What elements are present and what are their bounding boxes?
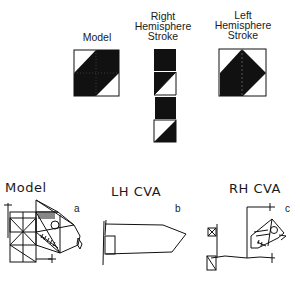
model-handwritten-label: Model <box>5 180 47 195</box>
lh-cva-drawing <box>103 220 186 265</box>
figure-drawings <box>0 0 300 281</box>
rh-cva-drawing <box>207 203 286 270</box>
rh-stroke-column <box>154 49 176 142</box>
panel-letter-b: b <box>175 203 181 214</box>
model-square <box>74 50 119 96</box>
panel-letter-c: c <box>285 203 290 214</box>
rh-cva-label: RH CVA <box>229 181 281 196</box>
lh-cva-label: LH CVA <box>111 184 161 199</box>
model-drawing <box>4 200 82 263</box>
panel-letter-a: a <box>74 203 80 214</box>
lh-stroke-square <box>219 49 266 96</box>
